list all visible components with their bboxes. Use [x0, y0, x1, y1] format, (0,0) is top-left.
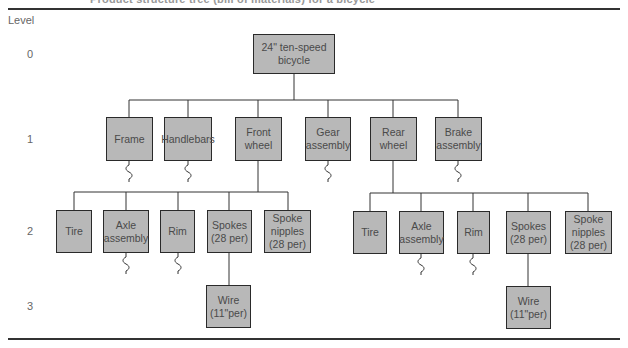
node-rear-spoke-nipples: Spoke nipples (28 per) [565, 211, 612, 254]
node-bicycle: 24" ten-speed bicycle [253, 34, 335, 74]
node-front-spoke-nipples: Spoke nipples (28 per) [264, 210, 311, 253]
node-front-spokes: Spokes (28 per) [207, 210, 252, 253]
node-front-wheel: Front wheel [235, 117, 282, 161]
node-rear-tire: Tire [353, 211, 387, 254]
node-rear-rim: Rim [457, 211, 490, 254]
node-handlebars: Handlebars [164, 117, 212, 161]
node-brake-assembly: Brake assembly [435, 117, 482, 161]
node-rear-axle-assembly: Axle assembly [399, 211, 444, 254]
node-front-wire: Wire (11"per) [206, 285, 251, 328]
node-gear-assembly: Gear assembly [305, 117, 351, 161]
node-rear-wire: Wire (11"per) [506, 286, 551, 329]
node-front-rim: Rim [160, 210, 195, 253]
node-frame: Frame [106, 117, 153, 161]
node-front-axle-assembly: Axle assembly [103, 210, 149, 253]
node-front-tire: Tire [56, 210, 92, 253]
node-rear-wheel: Rear wheel [370, 117, 417, 161]
node-rear-spokes: Spokes (28 per) [506, 211, 551, 254]
